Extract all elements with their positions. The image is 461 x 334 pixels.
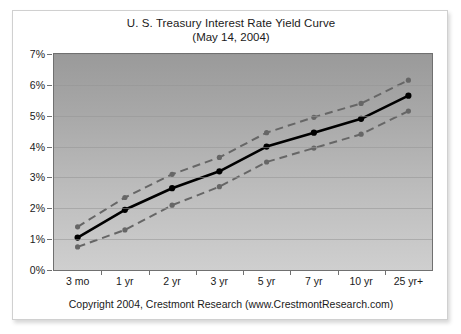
x-axis-tick-label: 10 yr bbox=[349, 275, 372, 287]
gridline bbox=[54, 208, 432, 209]
y-axis-tick-label: 4% bbox=[30, 141, 45, 153]
gridline bbox=[54, 54, 432, 55]
x-axis-tick-label: 5 yr bbox=[258, 275, 276, 287]
x-axis-tick bbox=[243, 271, 244, 275]
chart-title: U. S. Treasury Interest Rate Yield Curve bbox=[13, 16, 449, 30]
chart-subtitle: (May 14, 2004) bbox=[13, 30, 449, 44]
y-axis-tick bbox=[47, 147, 52, 148]
y-axis-tick-label: 3% bbox=[30, 171, 45, 183]
x-axis-tick-label: 3 mo bbox=[66, 275, 89, 287]
y-axis-tick bbox=[47, 85, 52, 86]
x-axis-tick bbox=[149, 271, 150, 275]
x-axis-tick-label: 1 yr bbox=[116, 275, 134, 287]
x-axis-tick bbox=[385, 271, 386, 275]
x-axis-tick-label: 7 yr bbox=[305, 275, 323, 287]
x-axis-tick-label: 3 yr bbox=[211, 275, 229, 287]
x-axis-tick-label: 25 yr+ bbox=[394, 275, 423, 287]
gridline bbox=[54, 239, 432, 240]
plot-area bbox=[53, 53, 433, 271]
chart-card: U. S. Treasury Interest Rate Yield Curve… bbox=[12, 10, 448, 320]
y-axis-tick-label: 6% bbox=[30, 79, 45, 91]
y-axis-tick bbox=[47, 54, 52, 55]
y-axis-tick-label: 7% bbox=[30, 48, 45, 60]
x-axis-tick bbox=[196, 271, 197, 275]
gridline bbox=[54, 177, 432, 178]
x-axis-tick bbox=[290, 271, 291, 275]
y-axis-tick-label: 5% bbox=[30, 110, 45, 122]
y-axis: 0%1%2%3%4%5%6%7% bbox=[13, 53, 49, 273]
y-axis-tick bbox=[47, 208, 52, 209]
y-axis-tick-label: 2% bbox=[30, 202, 45, 214]
chart-footer: Copyright 2004, Crestmont Research (www.… bbox=[13, 298, 449, 310]
gridlines bbox=[54, 54, 432, 270]
y-axis-tick bbox=[47, 177, 52, 178]
y-axis-tick bbox=[47, 116, 52, 117]
x-axis-tick bbox=[101, 271, 102, 275]
y-axis-tick bbox=[47, 270, 52, 271]
gridline bbox=[54, 147, 432, 148]
x-axis-tick bbox=[338, 271, 339, 275]
gridline bbox=[54, 85, 432, 86]
gridline bbox=[54, 116, 432, 117]
x-axis: 3 mo1 yr2 yr3 yr5 yr7 yr10 yr25 yr+ bbox=[53, 275, 433, 293]
y-axis-tick-label: 0% bbox=[30, 264, 45, 276]
y-axis-tick bbox=[47, 239, 52, 240]
x-axis-tick-label: 2 yr bbox=[163, 275, 181, 287]
y-axis-tick-label: 1% bbox=[30, 233, 45, 245]
